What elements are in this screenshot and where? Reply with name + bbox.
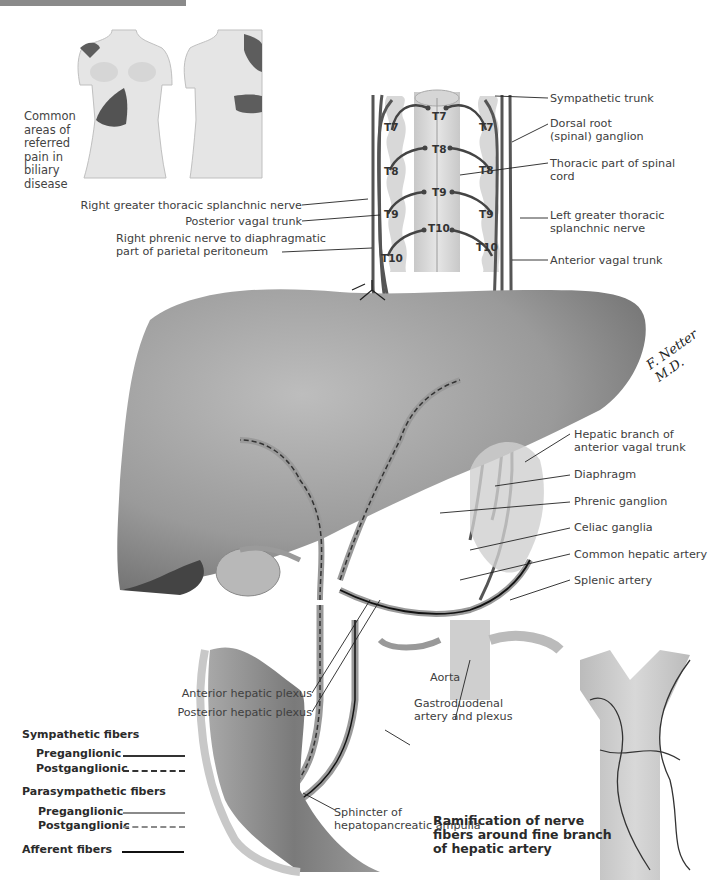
label-posterior-vagal-trunk: Posterior vagal trunk: [185, 215, 302, 228]
cord-segment-t8: T8: [432, 143, 446, 155]
liver: [117, 289, 646, 590]
label-gastroduodenal-artery: Gastroduodenal artery and plexus: [414, 697, 513, 723]
label-posterior-hepatic-plexus: Posterior hepatic plexus: [177, 706, 312, 719]
label-dorsal-root-ganglion: Dorsal root (spinal) ganglion: [550, 117, 644, 143]
label-thoracic-spinal-cord: Thoracic part of spinal cord: [550, 157, 675, 183]
cord-segment-t7: T7: [432, 110, 446, 122]
label-right-greater-splanchnic: Right greater thoracic splanchnic nerve: [80, 199, 302, 212]
label-hepatic-branch: Hepatic branch of anterior vagal trunk: [574, 428, 686, 454]
legend-sympathetic-post: Postganglionic: [36, 762, 128, 775]
right-ganglion-t10: T10: [476, 241, 498, 253]
referred-pain-caption: Common areas of referred pain in biliary…: [24, 110, 76, 191]
legend-parasympathetic-pre-line: [123, 812, 185, 814]
legend-sympathetic-pre-line: [123, 755, 185, 757]
right-ganglion-t9: T9: [479, 208, 493, 220]
legend-sympathetic-post-line: [123, 770, 185, 772]
label-right-phrenic-nerve: Right phrenic nerve to diaphragmatic par…: [116, 232, 326, 258]
cord-segment-t10: T10: [428, 222, 450, 234]
label-anterior-vagal-trunk: Anterior vagal trunk: [550, 254, 662, 267]
legend-sympathetic-heading: Sympathetic fibers: [22, 728, 139, 741]
legend-afferent-line: [122, 851, 184, 853]
left-ganglion-t10: T10: [381, 252, 403, 264]
label-left-greater-splanchnic: Left greater thoracic splanchnic nerve: [550, 209, 664, 235]
inset-title: Ramification of nerve fibers around fine…: [433, 814, 612, 856]
label-common-hepatic-artery: Common hepatic artery: [574, 548, 707, 561]
label-splenic-artery: Splenic artery: [574, 574, 652, 587]
label-sympathetic-trunk: Sympathetic trunk: [550, 92, 654, 105]
label-celiac-ganglia: Celiac ganglia: [574, 521, 653, 534]
legend-parasympathetic-post-line: [123, 826, 185, 828]
left-ganglion-t9: T9: [384, 208, 398, 220]
right-ganglion-t8: T8: [479, 164, 493, 176]
torso-front: [78, 30, 172, 178]
left-ganglion-t7: T7: [384, 121, 398, 133]
left-ganglion-t8: T8: [384, 165, 398, 177]
legend-sympathetic-pre: Preganglionic: [36, 747, 121, 760]
torso-back: [184, 30, 262, 178]
gallbladder: [216, 548, 280, 596]
label-aorta: Aorta: [430, 671, 460, 684]
label-anterior-hepatic-plexus: Anterior hepatic plexus: [182, 687, 312, 700]
legend-parasympathetic-heading: Parasympathetic fibers: [22, 785, 166, 798]
cord-segment-t9: T9: [432, 186, 446, 198]
label-phrenic-ganglion: Phrenic ganglion: [574, 495, 667, 508]
label-diaphragm: Diaphragm: [574, 468, 636, 481]
legend-parasympathetic-post: Postganglionic: [38, 819, 130, 832]
right-ganglion-t7: T7: [479, 121, 493, 133]
legend-parasympathetic-pre: Preganglionic: [38, 805, 123, 818]
legend-afferent: Afferent fibers: [22, 843, 112, 856]
